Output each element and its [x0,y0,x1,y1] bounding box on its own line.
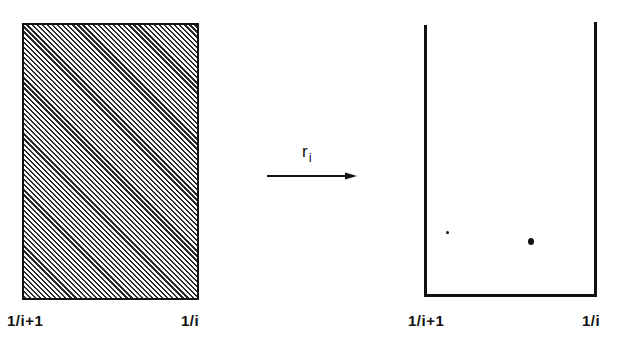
mapping-symbol: r [302,142,308,161]
open-box [424,22,594,294]
right-box-upper-bound-label: 1/i [582,313,600,328]
open-box-floor [424,294,597,297]
diagram-canvas: 1/i+1 1/i ri 1/i+1 1/i [0,0,624,361]
open-box-left-wall [424,25,427,297]
point-small [446,231,449,234]
right-arrow-icon [267,172,357,180]
right-box-lower-bound-label: 1/i+1 [408,313,444,328]
mapping-label: ri [302,143,312,164]
mapping-subscript: i [309,150,312,165]
point-large [528,238,534,245]
open-box-right-wall [594,22,597,297]
hatched-rectangle [22,23,199,300]
left-rect-upper-bound-label: 1/i [181,313,199,328]
left-rect-lower-bound-label: 1/i+1 [7,313,43,328]
